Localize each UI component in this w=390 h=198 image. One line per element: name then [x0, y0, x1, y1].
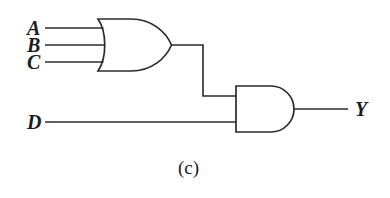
figure-caption: (c): [178, 158, 199, 177]
logic-circuit-figure: A B C D Y (c): [0, 0, 390, 198]
wire-or-to-and: [172, 45, 237, 96]
and-gate-shape: [236, 86, 294, 132]
input-label-d: D: [27, 112, 41, 132]
or-gate-shape: [98, 19, 172, 71]
output-label-y: Y: [355, 99, 367, 119]
input-label-c: C: [27, 52, 40, 72]
